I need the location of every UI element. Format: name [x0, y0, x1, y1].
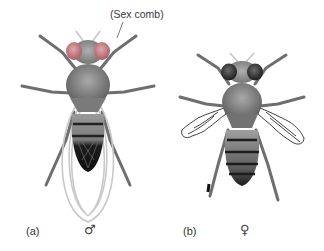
- panel-label-b: (b): [183, 225, 196, 237]
- female-scutellum: [226, 114, 258, 128]
- female-fly: [180, 53, 304, 200]
- female-abdomen: [225, 130, 259, 186]
- female-eye-right: [247, 64, 263, 81]
- female-symbol-icon: ♀: [240, 222, 250, 237]
- female-antennae: [230, 53, 254, 62]
- female-eye-left: [221, 64, 237, 81]
- sex-comb-callout: (Sex comb): [110, 8, 164, 20]
- sex-comb-pointer: [117, 22, 123, 38]
- male-symbol-icon: ♂: [84, 222, 96, 237]
- male-fly: [22, 22, 154, 222]
- male-scutellum: [70, 98, 106, 112]
- female-leg-marking: [208, 184, 209, 192]
- male-eye-right: [94, 42, 110, 60]
- drosophila-illustration: [0, 0, 324, 251]
- male-eye-left: [66, 42, 82, 60]
- male-abdomen: [72, 114, 105, 172]
- panel-label-a: (a): [26, 225, 39, 237]
